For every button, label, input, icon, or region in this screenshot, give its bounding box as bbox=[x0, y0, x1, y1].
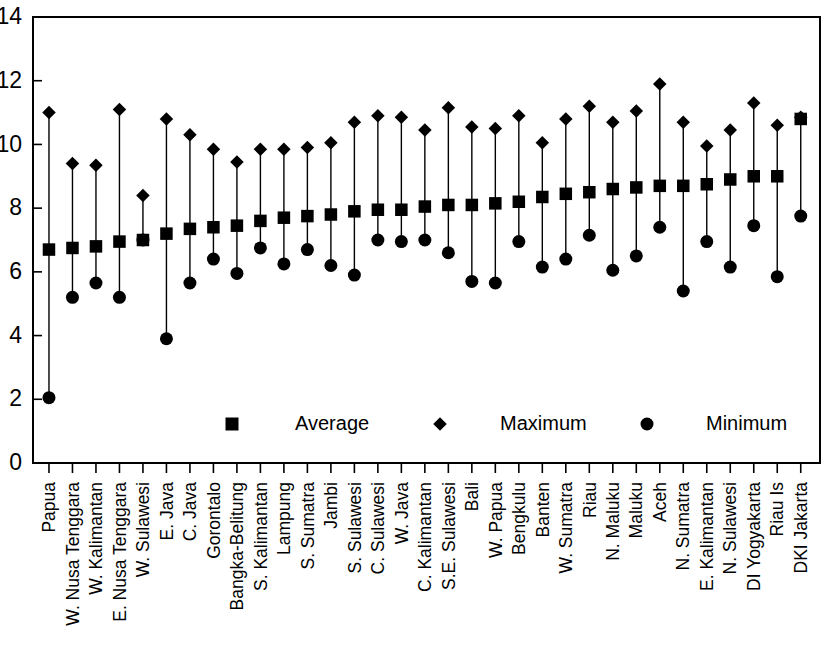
data-column bbox=[89, 158, 103, 289]
x-tick-label: N. Maluku bbox=[603, 482, 623, 561]
data-column bbox=[348, 115, 362, 281]
marker-square bbox=[372, 203, 385, 216]
data-column bbox=[183, 128, 197, 289]
marker-diamond bbox=[66, 157, 80, 171]
marker-square bbox=[395, 203, 408, 216]
marker-circle bbox=[794, 210, 807, 223]
marker-circle bbox=[348, 269, 361, 282]
data-column bbox=[747, 96, 761, 232]
x-tick-label: C. Sulawesi bbox=[368, 482, 388, 574]
y-axis: 02468101214 bbox=[0, 3, 42, 475]
x-tick-label: Bengkulu bbox=[509, 482, 529, 555]
marker-square bbox=[231, 219, 244, 232]
data-column bbox=[606, 115, 620, 276]
data-column bbox=[630, 104, 644, 262]
marker-square bbox=[560, 188, 573, 201]
x-tick-label: Papua bbox=[39, 482, 59, 533]
marker-circle bbox=[653, 221, 666, 234]
x-tick-label: N. Sumatra bbox=[673, 482, 693, 571]
x-tick-label: Jambi bbox=[321, 482, 341, 529]
data-column bbox=[559, 112, 573, 265]
marker-circle bbox=[583, 229, 596, 242]
marker-circle bbox=[113, 291, 126, 304]
marker-diamond bbox=[324, 136, 338, 150]
marker-square bbox=[536, 191, 549, 204]
data-column bbox=[230, 155, 244, 280]
data-column bbox=[277, 142, 291, 270]
marker-diamond bbox=[536, 136, 550, 150]
data-column bbox=[42, 106, 56, 404]
marker-circle bbox=[747, 219, 760, 232]
marker-square bbox=[442, 199, 455, 212]
y-tick-label: 0 bbox=[9, 449, 22, 475]
marker-square bbox=[607, 183, 620, 196]
x-tick-label: S. Sulawesi bbox=[345, 482, 365, 573]
x-tick-label: C. Kalimantan bbox=[415, 482, 435, 592]
data-series bbox=[42, 77, 807, 404]
marker-diamond bbox=[630, 104, 644, 118]
chart-container: 02468101214PapuaW. Nusa TenggaraW. Kalim… bbox=[0, 0, 828, 666]
marker-square bbox=[207, 221, 220, 234]
y-tick-label: 4 bbox=[9, 322, 22, 348]
marker-diamond bbox=[136, 189, 150, 203]
marker-diamond bbox=[42, 106, 56, 120]
marker-circle bbox=[230, 267, 243, 280]
x-tick-label: DKI Jakarta bbox=[791, 482, 811, 574]
x-tick-labels: PapuaW. Nusa TenggaraW. KalimantanE. Nus… bbox=[39, 482, 811, 626]
x-tick-label: Aceh bbox=[650, 482, 670, 522]
marker-diamond bbox=[700, 139, 714, 153]
x-axis bbox=[49, 463, 801, 473]
marker-diamond bbox=[113, 103, 127, 117]
marker-circle bbox=[324, 259, 337, 272]
marker-square bbox=[583, 186, 596, 199]
marker-square bbox=[466, 199, 479, 212]
x-tick-label: Gorontalo bbox=[204, 482, 224, 559]
marker-diamond bbox=[677, 115, 691, 129]
data-column bbox=[536, 136, 550, 273]
marker-square bbox=[794, 113, 807, 126]
marker-circle bbox=[606, 264, 619, 277]
marker-diamond bbox=[559, 112, 573, 126]
data-column bbox=[324, 136, 338, 272]
marker-diamond bbox=[277, 142, 291, 156]
marker-diamond bbox=[301, 141, 315, 155]
marker-circle bbox=[630, 249, 643, 262]
x-tick-label: Bangka-Belitung bbox=[227, 482, 247, 610]
range-chart: 02468101214PapuaW. Nusa TenggaraW. Kalim… bbox=[0, 0, 828, 666]
data-column bbox=[301, 141, 315, 256]
x-tick-label: Maluku bbox=[626, 482, 646, 538]
marker-circle bbox=[559, 253, 572, 266]
data-column bbox=[442, 101, 456, 259]
x-tick-label: Bali bbox=[462, 482, 482, 511]
marker-diamond bbox=[371, 109, 385, 123]
legend-item: Maximum bbox=[433, 412, 586, 434]
marker-square bbox=[701, 178, 714, 191]
marker-circle bbox=[536, 261, 549, 274]
data-column bbox=[677, 115, 691, 297]
x-tick-label: W. Kalimantan bbox=[86, 482, 106, 595]
marker-circle bbox=[677, 284, 690, 297]
marker-circle bbox=[277, 257, 290, 270]
y-tick-label: 12 bbox=[0, 67, 22, 93]
marker-diamond bbox=[583, 99, 597, 113]
marker-diamond bbox=[348, 115, 362, 129]
x-tick-label: W. Sumatra bbox=[556, 482, 576, 574]
x-tick-label: Lampung bbox=[274, 482, 294, 555]
marker-diamond bbox=[770, 119, 784, 133]
data-column bbox=[371, 109, 385, 246]
marker-square bbox=[66, 242, 79, 255]
data-column bbox=[418, 123, 432, 246]
marker-square bbox=[226, 418, 239, 431]
data-column bbox=[160, 112, 174, 345]
x-tick-label: Riau Is bbox=[767, 482, 787, 537]
y-tick-label: 6 bbox=[9, 258, 22, 284]
x-tick-label: Riau bbox=[580, 482, 600, 518]
marker-circle bbox=[183, 277, 196, 290]
marker-square bbox=[254, 215, 267, 228]
marker-circle bbox=[89, 277, 102, 290]
marker-square bbox=[137, 234, 150, 247]
marker-circle bbox=[489, 277, 502, 290]
legend-label: Minimum bbox=[706, 412, 787, 434]
marker-square bbox=[630, 181, 643, 194]
y-tick-label: 14 bbox=[0, 3, 22, 29]
